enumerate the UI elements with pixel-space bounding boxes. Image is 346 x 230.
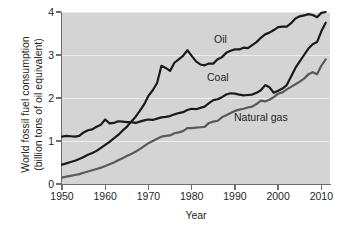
x-tick-label-1950: 1950 xyxy=(42,191,82,202)
series-label-oil: Oil xyxy=(214,34,227,45)
x-tick-label-2010: 2010 xyxy=(301,191,341,202)
fossil-fuel-consumption-chart: 01234 1950196019701980199020002010 World… xyxy=(0,0,346,230)
y-axis-line xyxy=(61,12,62,185)
y-tick-0 xyxy=(56,183,61,184)
x-tick-label-1960: 1960 xyxy=(85,191,125,202)
y-tick-1 xyxy=(56,140,61,141)
x-tick-label-2000: 2000 xyxy=(258,191,298,202)
gridline-4 xyxy=(62,12,330,13)
gridline-1 xyxy=(62,141,330,142)
series-label-coal: Coal xyxy=(207,72,229,83)
y-axis-title: World fossil fuel consumption (billion t… xyxy=(19,12,44,198)
gridline-3 xyxy=(62,55,330,56)
gridline-2 xyxy=(62,98,330,99)
series-label-natural-gas: Natural gas xyxy=(234,112,288,123)
x-tick-label-1970: 1970 xyxy=(128,191,168,202)
y-axis-title-line2: (billion tons of oil equivalent) xyxy=(31,12,44,198)
x-axis-line xyxy=(61,184,331,185)
x-axis-title: Year xyxy=(62,209,330,221)
y-tick-4 xyxy=(56,11,61,12)
x-tick-label-1980: 1980 xyxy=(172,191,212,202)
y-axis-title-line1: World fossil fuel consumption xyxy=(19,12,32,198)
y-tick-3 xyxy=(56,54,61,55)
y-tick-2 xyxy=(56,97,61,98)
x-tick-label-1990: 1990 xyxy=(215,191,255,202)
